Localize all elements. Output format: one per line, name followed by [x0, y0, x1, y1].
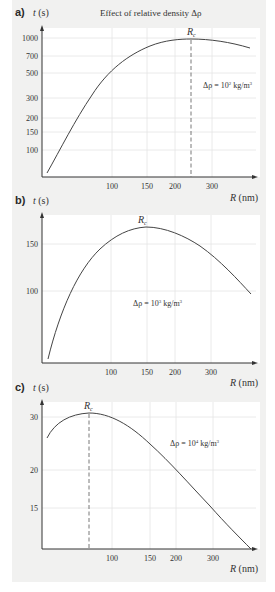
y-tick-labels-a: 1000 700 500 300 200 150 100 [22, 34, 38, 155]
panel-label-c: c) [15, 381, 25, 393]
panel-b: b) t (s) 150 100 100 150 200 300 R (nm) … [15, 194, 260, 389]
svg-text:300: 300 [205, 368, 217, 377]
svg-text:20: 20 [30, 466, 38, 475]
svg-text:300: 300 [26, 94, 38, 103]
panel-a: a) t (s) Effect of relative density Δρ 1… [15, 6, 260, 204]
x-axis-label-b: R (nm) [229, 377, 258, 389]
panel-label-b: b) [15, 194, 26, 206]
svg-text:15: 15 [30, 504, 38, 513]
svg-text:200: 200 [26, 114, 38, 123]
chart-title: Effect of relative density Δρ [100, 8, 202, 18]
svg-text:30: 30 [30, 413, 38, 422]
svg-text:100: 100 [106, 554, 118, 563]
svg-text:150: 150 [144, 554, 156, 563]
y-axis-label-b: t (s) [33, 195, 49, 207]
critical-radius-label-c: Rc [83, 400, 93, 412]
svg-text:200: 200 [169, 368, 181, 377]
plot-area-a [42, 28, 260, 177]
annotation-b: Δρ = 103 kg/m3 [133, 299, 183, 308]
x-tick-labels-b: 100 150 200 300 [105, 368, 217, 377]
plot-area-b [42, 215, 260, 363]
svg-text:200: 200 [169, 182, 181, 191]
y-tick-labels-b: 150 100 [26, 240, 38, 296]
svg-text:100: 100 [26, 146, 38, 155]
svg-text:150: 150 [141, 182, 153, 191]
svg-text:1000: 1000 [22, 34, 38, 43]
plot-area-c [42, 402, 260, 549]
x-tick-labels-c: 100 150 200 300 [106, 554, 219, 563]
y-axis-label-a: t (s) [33, 7, 49, 19]
svg-text:150: 150 [141, 368, 153, 377]
svg-text:500: 500 [26, 69, 38, 78]
annotation-c: Δρ = 104 kg/m3 [170, 439, 220, 448]
y-tick-labels-c: 30 20 15 [30, 413, 38, 513]
critical-radius-label-a: Rc [186, 26, 196, 38]
x-tick-labels-a: 100 150 200 300 [106, 182, 218, 191]
x-axis-label-a: R (nm) [229, 192, 258, 204]
svg-text:100: 100 [106, 182, 118, 191]
svg-text:300: 300 [206, 182, 218, 191]
svg-text:300: 300 [207, 554, 219, 563]
svg-text:100: 100 [105, 368, 117, 377]
svg-text:200: 200 [170, 554, 182, 563]
svg-text:700: 700 [26, 52, 38, 61]
svg-text:100: 100 [26, 287, 38, 296]
figure-svg: a) t (s) Effect of relative density Δρ 1… [0, 0, 275, 592]
panel-c: c) t (s) 30 20 15 100 150 200 300 R (nm)… [15, 381, 260, 575]
x-axis-label-c: R (nm) [229, 563, 258, 575]
annotation-a: Δρ = 102 kg/m3 [203, 81, 253, 90]
svg-text:150: 150 [26, 240, 38, 249]
y-axis-label-c: t (s) [33, 382, 49, 394]
svg-text:150: 150 [26, 128, 38, 137]
panel-label-a: a) [15, 6, 25, 18]
